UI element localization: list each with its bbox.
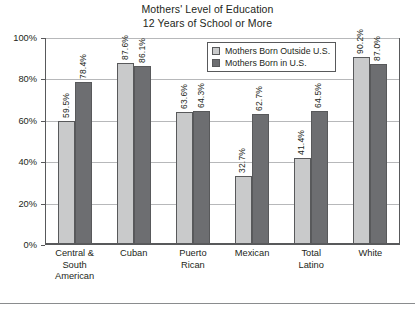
bar-value-label: 59.5% [61, 93, 71, 118]
legend-item-outside-us: Mothers Born Outside U.S. [212, 46, 330, 56]
x-axis-category-label: Central &SouthAmerican [46, 248, 104, 283]
bar-group: 87.6%86.1% [117, 39, 151, 244]
bar-value-label: 63.6% [179, 84, 189, 109]
bar: 64.3% [193, 111, 210, 244]
bar: 64.5% [311, 111, 328, 245]
bar: 90.2% [353, 57, 370, 244]
plot-area: 59.5%78.4%87.6%86.1%63.6%64.3%32.7%62.7%… [45, 38, 400, 245]
bar: 41.4% [294, 158, 311, 244]
y-axis-tick-mark [41, 245, 45, 246]
chart-legend: Mothers Born Outside U.S. Mothers Born i… [207, 42, 336, 72]
y-axis-tick-label: 100% [13, 33, 37, 43]
x-axis-category-label: TotalLatino [282, 248, 340, 271]
legend-swatch-icon-outside-us [212, 47, 220, 55]
bar-value-label: 41.4% [296, 130, 306, 155]
chart-title: Mothers' Level of Education [0, 2, 415, 16]
chart-title-block: Mothers' Level of Education 12 Years of … [0, 2, 415, 30]
y-axis: 0%20%40%60%80%100% [0, 38, 41, 245]
bar: 78.4% [75, 82, 92, 244]
bar: 86.1% [134, 66, 151, 244]
y-axis-tick-label: 80% [18, 74, 37, 84]
legend-label-born-in-us: Mothers Born in U.S. [225, 58, 307, 68]
y-axis-tick-label: 0% [24, 240, 37, 250]
bar-group: 90.2%87.0% [353, 39, 387, 244]
bar: 32.7% [235, 176, 252, 244]
x-axis-labels: Central &SouthAmericanCubanPuertoRicanMe… [45, 248, 400, 283]
bar: 87.6% [117, 63, 134, 244]
chart-subtitle: 12 Years of School or More [0, 16, 415, 30]
bar-value-label: 86.1% [137, 38, 147, 63]
bar-value-label: 87.0% [372, 36, 382, 61]
y-axis-tick-label: 20% [18, 199, 37, 209]
bar-value-label: 62.7% [254, 86, 264, 111]
legend-label-outside-us: Mothers Born Outside U.S. [225, 46, 330, 56]
bottom-divider [0, 303, 415, 304]
bar-value-label: 64.3% [196, 83, 206, 108]
x-axis-category-label: Cuban [105, 248, 163, 260]
bar-value-label: 78.4% [78, 54, 88, 79]
bar: 87.0% [370, 64, 387, 244]
bar-value-label: 87.6% [120, 35, 130, 60]
bar-value-label: 32.7% [237, 148, 247, 173]
bar: 59.5% [58, 121, 75, 244]
bar-group: 63.6%64.3% [176, 39, 210, 244]
y-axis-tick-label: 60% [18, 116, 37, 126]
x-axis-category-label: White [341, 248, 399, 260]
y-axis-tick-label: 40% [18, 157, 37, 167]
x-axis-category-label: Mexican [223, 248, 281, 260]
bar: 63.6% [176, 112, 193, 244]
bar-value-label: 64.5% [313, 82, 323, 107]
bar-group: 59.5%78.4% [58, 39, 92, 244]
x-axis-category-label: PuertoRican [164, 248, 222, 271]
x-axis-baseline [46, 243, 399, 244]
legend-item-born-in-us: Mothers Born in U.S. [212, 58, 330, 68]
legend-swatch-icon-born-in-us [212, 59, 220, 67]
bar: 62.7% [252, 114, 269, 244]
bar-value-label: 90.2% [355, 29, 365, 54]
